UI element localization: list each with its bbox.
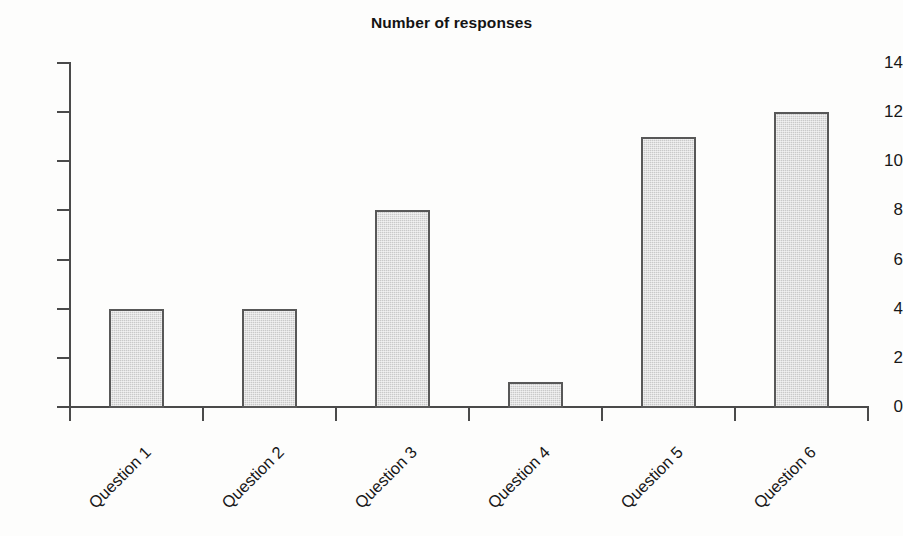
x-axis-category-label: Question 6 [750, 443, 820, 513]
y-axis-tick-label: 4 [857, 299, 903, 319]
x-axis-category-label: Question 5 [617, 443, 687, 513]
x-axis-tick [202, 408, 204, 421]
x-axis-category-label: Question 2 [218, 443, 288, 513]
y-axis-tick-label: 14 [857, 53, 903, 73]
y-axis-tick-label: 2 [857, 348, 903, 368]
y-axis-tick-label: 6 [857, 250, 903, 270]
y-axis-tick [57, 209, 70, 211]
y-axis-tick-label: 12 [857, 102, 903, 122]
x-axis-tick [734, 408, 736, 421]
bar [774, 112, 829, 408]
bar [641, 137, 696, 408]
y-axis-tick-label: 10 [857, 151, 903, 171]
x-axis-tick [69, 408, 71, 421]
x-axis-tick [601, 408, 603, 421]
x-axis-category-label: Question 3 [351, 443, 421, 513]
bar [375, 210, 430, 408]
x-axis-tick [867, 408, 869, 421]
bar [508, 382, 563, 408]
y-axis-tick [57, 357, 70, 359]
y-axis-tick [57, 259, 70, 261]
y-axis-tick-label: 8 [857, 200, 903, 220]
bar [242, 309, 297, 408]
chart-title: Number of responses [0, 14, 903, 32]
bar [109, 309, 164, 408]
y-axis-tick [57, 62, 70, 64]
x-axis-category-label: Question 1 [85, 443, 155, 513]
x-axis-tick [335, 408, 337, 421]
y-axis-tick [57, 111, 70, 113]
y-axis-tick [57, 160, 70, 162]
x-axis-category-label: Question 4 [484, 443, 554, 513]
y-axis-tick [57, 308, 70, 310]
bar-chart: Number of responses 02468101214 Question… [0, 0, 903, 536]
x-axis-tick [468, 408, 470, 421]
y-axis-tick-label: 0 [857, 397, 903, 417]
